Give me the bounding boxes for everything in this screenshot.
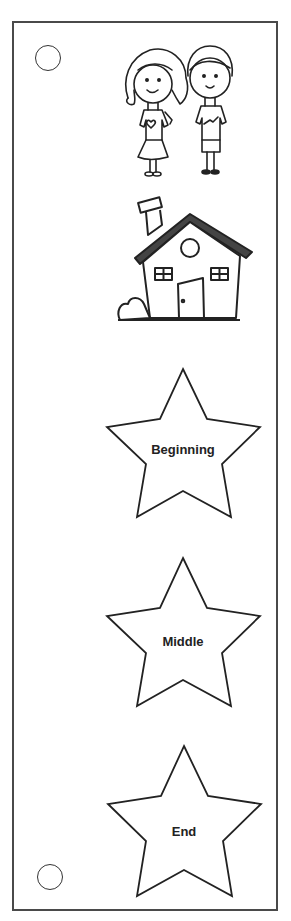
star-label-beginning: Beginning: [123, 442, 243, 457]
star-label-end: End: [124, 824, 244, 839]
star-label-middle: Middle: [123, 634, 243, 649]
star-end-shape: [108, 746, 261, 896]
characters-illustration: [126, 46, 232, 176]
house-illustration: [118, 197, 252, 320]
illustrations: [0, 0, 291, 921]
star-middle-shape: [107, 558, 260, 706]
